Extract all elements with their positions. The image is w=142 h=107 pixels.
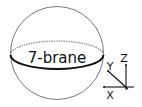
x-arrow-tip-icon: [103, 86, 105, 88]
sphere-diagram: 7-brane Z Y X: [0, 0, 142, 107]
z-axis-label: Z: [120, 52, 128, 65]
brane-label: 7-brane: [28, 49, 87, 67]
y-axis-line: [108, 71, 128, 89]
x-axis-label: X: [106, 89, 114, 102]
y-axis-label: Y: [106, 60, 114, 73]
